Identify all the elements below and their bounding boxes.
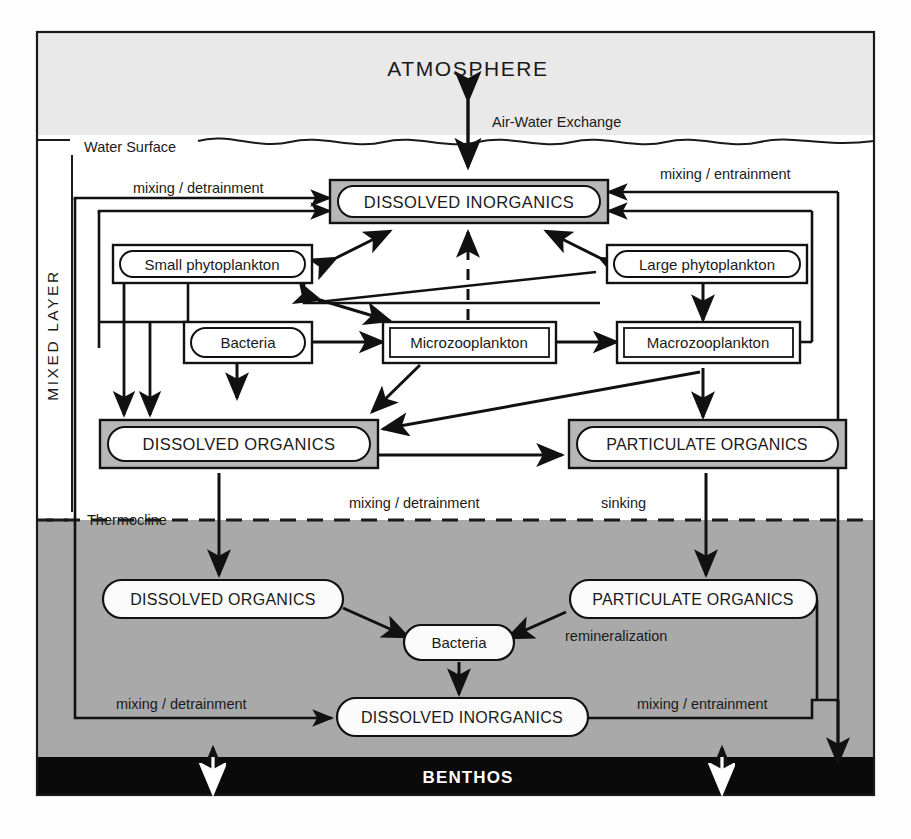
box-label: Bacteria xyxy=(220,334,276,351)
diagram-canvas: ATMOSPHERE Water Surface Thermocline MIX… xyxy=(0,0,911,839)
atmosphere-band xyxy=(37,32,874,135)
label-mixing-entrainment-bottom: mixing / entrainment xyxy=(637,696,768,712)
box-label: PARTICULATE ORGANICS xyxy=(592,591,793,608)
label-air-water-exchange: Air-Water Exchange xyxy=(492,114,621,130)
box-label: Bacteria xyxy=(431,634,487,651)
box-dissolved-organics-deep[interactable]: DISSOLVED ORGANICS xyxy=(103,580,343,618)
box-dissolved-organics-mixed-layer[interactable]: DISSOLVED ORGANICS xyxy=(100,420,378,468)
box-small-phytoplankton[interactable]: Small phytoplankton xyxy=(113,245,312,283)
box-bacteria-deep[interactable]: Bacteria xyxy=(404,625,514,660)
box-label: Small phytoplankton xyxy=(144,256,279,273)
water-surface-label: Water Surface xyxy=(84,139,176,155)
box-label: Macrozooplankton xyxy=(647,334,770,351)
label-mixing-entrainment-top: mixing / entrainment xyxy=(660,166,791,182)
box-label: DISSOLVED INORGANICS xyxy=(361,709,563,726)
box-bacteria-mixed-layer[interactable]: Bacteria xyxy=(184,322,312,363)
mixed-layer-label: MIXED LAYER xyxy=(44,269,61,401)
benthos-label: BENTHOS xyxy=(423,768,514,787)
box-particulate-organics-deep[interactable]: PARTICULATE ORGANICS xyxy=(570,580,817,618)
box-label: Large phytoplankton xyxy=(639,256,775,273)
label-sinking: sinking xyxy=(601,495,646,511)
box-dissolved-inorganics-mixed-layer[interactable]: DISSOLVED INORGANICS xyxy=(330,180,608,223)
box-label: PARTICULATE ORGANICS xyxy=(606,436,807,453)
box-dissolved-inorganics-deep[interactable]: DISSOLVED INORGANICS xyxy=(337,698,588,736)
box-label: DISSOLVED INORGANICS xyxy=(364,193,574,211)
box-large-phytoplankton[interactable]: Large phytoplankton xyxy=(607,245,807,283)
label-remineralization: remineralization xyxy=(565,628,667,644)
label-mixing-detrainment-bottom: mixing / detrainment xyxy=(116,696,247,712)
label-mixing-detrainment-mid: mixing / detrainment xyxy=(349,495,480,511)
label-mixing-detrainment-top: mixing / detrainment xyxy=(133,180,264,196)
thermocline-label: Thermocline xyxy=(87,512,167,528)
box-particulate-organics-mixed-layer[interactable]: PARTICULATE ORGANICS xyxy=(569,420,846,468)
atmosphere-label: ATMOSPHERE xyxy=(387,57,548,80)
box-label: DISSOLVED ORGANICS xyxy=(142,435,335,453)
box-label: DISSOLVED ORGANICS xyxy=(130,591,316,608)
ocean-carbon-cycle-diagram: ATMOSPHERE Water Surface Thermocline MIX… xyxy=(0,0,911,839)
box-macrozooplankton[interactable]: Macrozooplankton xyxy=(617,322,800,363)
box-label: Microzooplankton xyxy=(410,334,528,351)
box-microzooplankton[interactable]: Microzooplankton xyxy=(383,322,556,363)
